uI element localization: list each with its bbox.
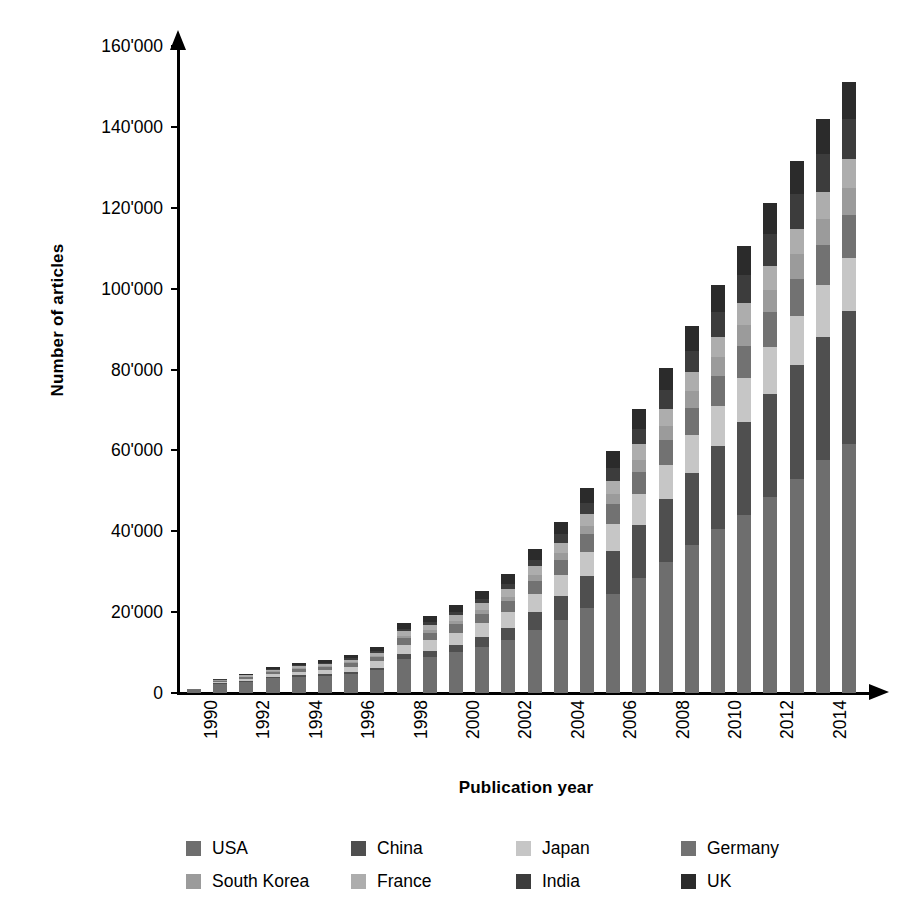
- bar-segment: [606, 504, 620, 524]
- bar-segment: [816, 192, 830, 219]
- bar-segment: [606, 481, 620, 495]
- y-tick-label: 40'000: [45, 521, 163, 542]
- legend-swatch-icon: [186, 874, 201, 889]
- bar-segment: [449, 652, 463, 693]
- legend-label: UK: [707, 871, 731, 892]
- bar[interactable]: [606, 451, 620, 693]
- bar-segment: [501, 612, 515, 627]
- bar-segment: [580, 608, 594, 693]
- bar-segment: [842, 215, 856, 257]
- bar-segment: [423, 640, 437, 651]
- bar-segment: [685, 545, 699, 693]
- bar-segment: [397, 645, 411, 654]
- bar-segment: [632, 409, 646, 428]
- legend-swatch-icon: [186, 841, 201, 856]
- bar-segment: [790, 161, 804, 194]
- bar-segment: [816, 119, 830, 154]
- bar-segment: [554, 522, 568, 535]
- bar[interactable]: [501, 574, 515, 693]
- bar[interactable]: [790, 161, 804, 694]
- bar[interactable]: [842, 82, 856, 693]
- legend-item-south-korea[interactable]: South Korea: [186, 871, 351, 892]
- bar[interactable]: [554, 522, 568, 693]
- bar[interactable]: [632, 409, 646, 693]
- legend-label: France: [377, 871, 431, 892]
- bar-segment: [292, 677, 306, 693]
- x-tick-label: 1996: [358, 700, 379, 739]
- bar[interactable]: [423, 616, 437, 693]
- bar-segment: [659, 409, 673, 426]
- bar-segment: [423, 657, 437, 693]
- bar[interactable]: [528, 549, 542, 693]
- bar-segment: [449, 645, 463, 652]
- bar[interactable]: [344, 655, 358, 693]
- bar-segment: [659, 465, 673, 499]
- legend-item-china[interactable]: China: [351, 838, 516, 859]
- bar[interactable]: [397, 623, 411, 693]
- bar-segment: [449, 624, 463, 632]
- bar-segment: [475, 647, 489, 694]
- legend-item-india[interactable]: India: [516, 871, 681, 892]
- bar-segment: [528, 594, 542, 612]
- bar-segment: [580, 526, 594, 534]
- bar-segment: [685, 372, 699, 391]
- bar-segment: [763, 266, 777, 290]
- bar-segment: [580, 514, 594, 526]
- bar[interactable]: [370, 647, 384, 693]
- x-tick-label: 2004: [568, 700, 589, 739]
- bar-segment: [528, 560, 542, 567]
- bar[interactable]: [187, 689, 201, 693]
- bar-segment: [842, 119, 856, 159]
- bar-segment: [370, 670, 384, 693]
- bar[interactable]: [580, 488, 594, 693]
- y-tick-label: 100'000: [45, 278, 163, 299]
- x-axis-tick-labels: 1990199219941996199820002002200420062008…: [180, 700, 872, 770]
- bar-segment: [816, 219, 830, 245]
- bar[interactable]: [266, 667, 280, 693]
- bar-segment: [554, 553, 568, 560]
- bar-segment: [423, 633, 437, 641]
- bar-segment: [501, 640, 515, 693]
- x-tick-label: 2010: [725, 700, 746, 739]
- bar-segment: [397, 638, 411, 645]
- bar[interactable]: [292, 663, 306, 693]
- bar[interactable]: [318, 660, 332, 693]
- bar[interactable]: [213, 679, 227, 694]
- bar-segment: [737, 246, 751, 275]
- legend-item-france[interactable]: France: [351, 871, 516, 892]
- bar[interactable]: [763, 203, 777, 693]
- legend-label: Japan: [542, 838, 590, 859]
- legend-swatch-icon: [351, 874, 366, 889]
- legend-item-japan[interactable]: Japan: [516, 838, 681, 859]
- bar[interactable]: [449, 605, 463, 693]
- bar-segment: [397, 659, 411, 693]
- bar-segment: [790, 194, 804, 229]
- y-tick-label: 80'000: [45, 359, 163, 380]
- bar-segment: [475, 623, 489, 636]
- bar-segment: [606, 494, 620, 504]
- bar-segment: [632, 429, 646, 445]
- bar-segment: [737, 275, 751, 303]
- bar-segment: [632, 460, 646, 472]
- bar-segment: [711, 285, 725, 312]
- bar[interactable]: [239, 674, 253, 693]
- y-tick-label: 160'000: [45, 36, 163, 57]
- x-tick-label: 2008: [673, 700, 694, 739]
- bar[interactable]: [711, 285, 725, 693]
- legend-item-germany[interactable]: Germany: [681, 838, 856, 859]
- bar-segment: [475, 637, 489, 647]
- bar-segment: [632, 494, 646, 525]
- bar[interactable]: [659, 368, 673, 693]
- bar-segment: [475, 614, 489, 624]
- bar-segment: [763, 290, 777, 312]
- bar[interactable]: [737, 246, 751, 693]
- bar-segment: [554, 620, 568, 693]
- bar-segment: [737, 346, 751, 379]
- bar-segment: [737, 515, 751, 693]
- legend-item-usa[interactable]: USA: [186, 838, 351, 859]
- legend-item-uk[interactable]: UK: [681, 871, 856, 892]
- bar[interactable]: [475, 591, 489, 693]
- bar[interactable]: [685, 326, 699, 693]
- bar-segment: [685, 351, 699, 373]
- bar[interactable]: [816, 119, 830, 693]
